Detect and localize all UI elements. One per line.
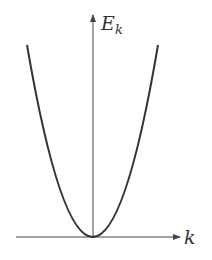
y-axis-label: Ek (100, 12, 123, 37)
x-axis-label: k (184, 226, 196, 248)
dispersion-diagram: Ek k (0, 0, 212, 260)
